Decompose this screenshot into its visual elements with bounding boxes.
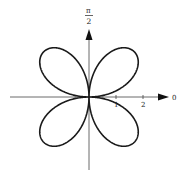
arrowhead-up-icon xyxy=(86,29,93,40)
angle-label-pi-numerator: π xyxy=(86,7,91,15)
tick-label-2: 2 xyxy=(141,101,145,109)
angle-label-pi-denominator: 2 xyxy=(87,17,92,26)
polar-rose-diagram: 1 2 0 π 2 xyxy=(0,0,182,175)
tick-label-1: 1 xyxy=(114,101,118,109)
angle-label-zero: 0 xyxy=(172,94,176,102)
arrowhead-right-icon xyxy=(158,94,169,101)
